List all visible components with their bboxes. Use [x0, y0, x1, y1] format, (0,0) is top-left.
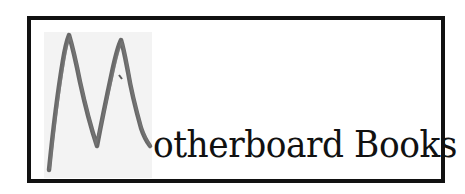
logo-canvas: M otherboard Books: [0, 0, 465, 194]
brand-wordmark: otherboard Books: [153, 121, 457, 169]
